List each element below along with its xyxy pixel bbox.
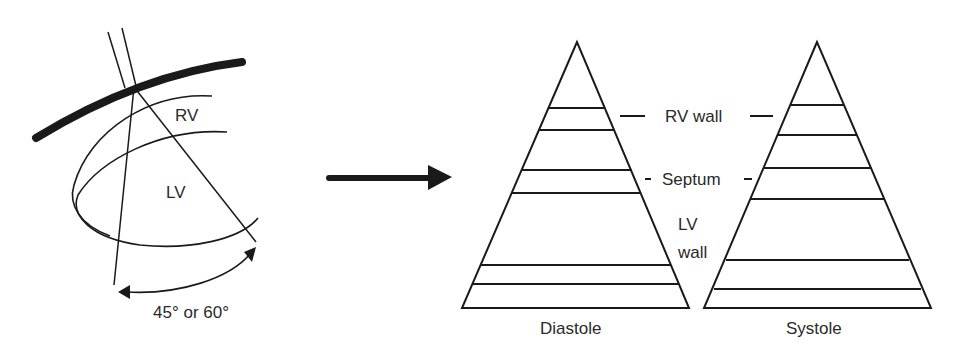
angle-arrow-left-icon [118,285,130,299]
sector-line-left [114,87,134,285]
layer-labels: RV wall Septum LV wall [620,107,773,262]
rv-wall-label: RV wall [665,107,722,126]
systole-label: Systole [786,319,842,338]
angle-arrow-right-icon [244,247,256,262]
diastole-triangle: Diastole [462,42,689,338]
sector-scan-schematic: RV LV 45° or 60° [36,28,258,322]
diastole-label: Diastole [540,319,601,338]
chest-wall [36,62,242,138]
lv-label: LV [166,183,186,202]
rv-label: RV [175,106,199,125]
beam-line-right [122,28,136,86]
systole-triangle: Systole [704,42,931,338]
transition-arrow-icon [329,165,452,190]
lv-wall-label-line1: LV [678,215,698,234]
angle-arc [126,254,250,292]
septum-label: Septum [662,170,721,189]
beam-line-left [108,32,125,88]
m-mode-diagram: RV LV 45° or 60° Diastole RV wall Septum… [0,0,959,360]
angle-label: 45° or 60° [153,303,229,322]
lv-wall-label-line2: wall [677,243,707,262]
